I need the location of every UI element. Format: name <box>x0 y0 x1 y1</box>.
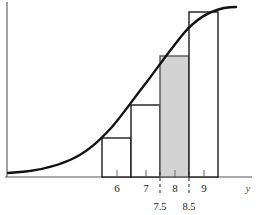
histogram-bar <box>131 105 160 177</box>
histogram-bar <box>189 12 218 177</box>
histogram-bar-highlighted <box>160 56 189 177</box>
x-tick-label-9: 9 <box>201 182 207 194</box>
chart-canvas: 6 7 8 9 7.5 8.5 y <box>0 0 262 215</box>
x-axis-label: y <box>245 182 251 194</box>
histogram-figure: 6 7 8 9 7.5 8.5 y <box>0 0 262 215</box>
x-tick-label-8: 8 <box>172 182 178 194</box>
x-tick-label-7: 7 <box>143 182 149 194</box>
boundary-label-lower: 7.5 <box>153 201 166 212</box>
boundary-label-upper: 8.5 <box>182 201 195 212</box>
x-tick-label-6: 6 <box>114 182 120 194</box>
